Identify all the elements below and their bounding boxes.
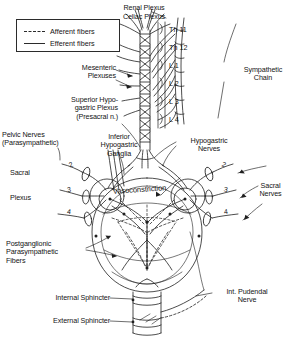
- wall-ganglia: [95, 198, 201, 270]
- solid-line-icon: [24, 43, 45, 44]
- spinal-level-l1: L 1: [169, 61, 179, 70]
- spinal-level-ticks: [158, 22, 165, 128]
- pudendal-nerve: [161, 232, 206, 318]
- legend-label-efferent: Efferent fibers: [50, 39, 95, 48]
- detrusor-efferent-fibers: [110, 199, 185, 270]
- label-postganglionic-parasympathetic-fibers: Postganglionic Parasympathetic Fibers: [6, 240, 106, 265]
- label-sacral-nerves: Sacral Nerves: [248, 182, 293, 199]
- label-sympathetic-chain: Sympathetic Chain: [232, 66, 294, 83]
- label-internal-sphincter: Internal Sphincter: [18, 294, 110, 302]
- label-mesenteric-plexuses: Mesenteric Plexuses: [36, 64, 116, 81]
- dashed-line-icon: [24, 31, 45, 32]
- legend-row-afferent: Afferent fibers: [24, 26, 95, 36]
- bladder-innervation-diagram: Afferent fibers Efferent fibers Renal Pl…: [0, 0, 295, 339]
- legend-label-afferent: Afferent fibers: [50, 27, 95, 36]
- mesenteric-branches: [117, 44, 140, 116]
- spinal-level-th11: Th 11: [169, 25, 187, 34]
- label-external-sphincter: External Sphincter: [18, 317, 110, 325]
- spinal-level-l3: L 3: [169, 97, 179, 106]
- aortic-plexus-trunk: [140, 30, 150, 150]
- label-plexus: Plexus: [10, 194, 31, 202]
- spinal-level-l4: L 4: [169, 115, 179, 124]
- sphincter-hatching: [140, 314, 159, 324]
- sacral-root-left-3: 3: [66, 186, 71, 194]
- label-inferior-hypogastric-ganglia: Inferior Hypogastric Ganglia: [88, 133, 150, 158]
- label-internal-pudendal-nerve: Int. Pudendal Nerve: [212, 288, 282, 305]
- spinal-level-th12: Th 12: [169, 43, 187, 52]
- label-celiac-plexus: Celiac Plexus: [104, 13, 184, 21]
- legend-row-efferent: Efferent fibers: [24, 38, 95, 48]
- sacral-root-right-4: 4: [224, 208, 229, 215]
- urethra: [133, 279, 161, 335]
- label-superior-hypogastric-plexus: Superior Hypo- gastric Plexus (Presacral…: [18, 96, 118, 121]
- label-pelvic-nerves: Pelvic Nerves (Parasympathetic): [2, 131, 102, 148]
- label-sacral: Sacral: [10, 169, 30, 177]
- legend: Afferent fibers Efferent fibers: [16, 19, 120, 52]
- label-hypogastric-nerves: Hypogastric Nerves: [178, 137, 240, 154]
- spinal-level-l2: L 2: [169, 79, 179, 88]
- sacral-root-left-4: 4: [67, 208, 72, 215]
